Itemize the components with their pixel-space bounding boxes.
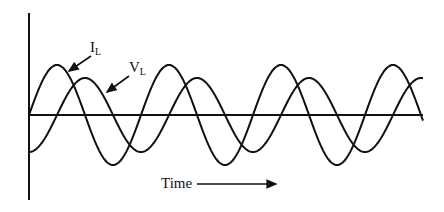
current-label-pointer [69, 56, 91, 71]
current-label: IL [90, 39, 101, 57]
time-axis-label: Time [161, 175, 192, 191]
voltage-label-pointer [107, 76, 129, 92]
inductor-waveform-diagram: IL VL Time [0, 0, 444, 212]
voltage-label: VL [129, 59, 146, 77]
